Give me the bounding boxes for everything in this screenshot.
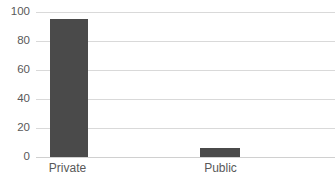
- y-tick-label-60: 60: [0, 64, 30, 76]
- y-tick-label-80: 80: [0, 35, 30, 47]
- bar-private: [50, 19, 88, 157]
- y-tick-label-20: 20: [0, 122, 30, 134]
- bar-public: [200, 148, 240, 157]
- x-tick-label-private: Private: [30, 162, 105, 174]
- plot-area: [36, 12, 335, 157]
- gridline-100: [36, 12, 335, 13]
- y-tick-label-40: 40: [0, 93, 30, 105]
- y-tick-label-100: 100: [0, 6, 30, 18]
- x-axis-baseline: [36, 157, 335, 158]
- y-tick-label-0: 0: [0, 151, 30, 163]
- bar-chart: 100 80 60 40 20 0 Private Public: [0, 0, 335, 184]
- x-tick-label-public: Public: [183, 162, 258, 174]
